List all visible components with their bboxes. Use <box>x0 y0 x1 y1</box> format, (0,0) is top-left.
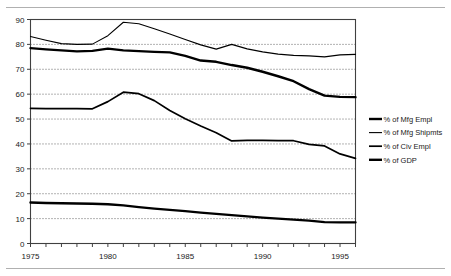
chart-legend: % of Mfg Empl% of Mfg Shipmts% of Civ Em… <box>369 115 443 165</box>
gridlines-group <box>31 44 356 218</box>
y-axis-tick-label: 40 <box>16 140 25 149</box>
chart-figure: 0102030405060708090 19751980198519901995… <box>0 0 451 276</box>
y-axis-tick-label: 30 <box>16 165 25 174</box>
plot-frame <box>31 20 356 244</box>
series-line <box>31 202 356 222</box>
legend-item-label: % of Mfg Empl <box>384 115 433 124</box>
y-axis-tick-label: 0 <box>20 240 25 249</box>
line-chart: 0102030405060708090 19751980198519901995… <box>0 0 451 276</box>
series-line <box>31 92 356 158</box>
x-axis-labels: 19751980198519901995 <box>22 252 350 261</box>
x-axis-tick-label: 1995 <box>331 252 349 261</box>
y-axis-labels: 0102030405060708090 <box>16 16 25 249</box>
x-axis-tick-label: 1975 <box>22 252 40 261</box>
data-series-group <box>31 22 356 222</box>
y-axis-tick-label: 60 <box>16 90 25 99</box>
y-axis-tick-label: 20 <box>16 190 25 199</box>
y-axis-tick-label: 80 <box>16 40 25 49</box>
legend-item-label: % of GDP <box>384 156 417 165</box>
x-axis-tick-label: 1985 <box>176 252 194 261</box>
x-axis-tick-label: 1980 <box>99 252 117 261</box>
y-axis-tick-label: 10 <box>16 215 25 224</box>
y-axis-tick-label: 70 <box>16 65 25 74</box>
plot-border <box>31 20 356 244</box>
legend-item-label: % of Mfg Shipmts <box>384 128 443 137</box>
x-axis-tick-label: 1990 <box>254 252 272 261</box>
y-axis-tick-label: 90 <box>16 16 25 25</box>
y-axis-tick-label: 50 <box>16 115 25 124</box>
legend-item-label: % of Civ Empl <box>384 142 431 151</box>
